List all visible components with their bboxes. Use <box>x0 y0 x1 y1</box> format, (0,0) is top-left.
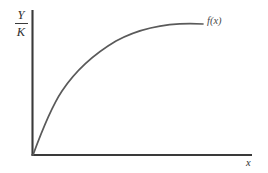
plot-area <box>0 0 268 173</box>
chart-figure: Y K x f(x) <box>0 0 268 173</box>
x-axis-label: x <box>246 158 251 169</box>
y-axis-label-numerator: Y <box>11 8 31 22</box>
y-axis-label-denominator: K <box>11 25 31 39</box>
function-curve <box>33 24 203 155</box>
y-axis-label: Y K <box>11 8 31 40</box>
fraction-bar-icon <box>15 23 28 24</box>
curve-label: f(x) <box>207 16 222 27</box>
